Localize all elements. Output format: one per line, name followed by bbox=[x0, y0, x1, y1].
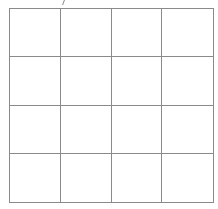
board-cell-r3-c1[interactable] bbox=[10, 106, 61, 154]
board-cell-r4-c3[interactable] bbox=[112, 154, 163, 202]
game-board-grid bbox=[9, 8, 214, 203]
board-cell-r4-c1[interactable] bbox=[10, 154, 61, 202]
board-cell-r1-c1[interactable] bbox=[10, 9, 61, 57]
board-cell-r4-c4[interactable] bbox=[162, 154, 213, 202]
board-cell-r3-c4[interactable] bbox=[162, 106, 213, 154]
board-cell-r1-c4[interactable] bbox=[162, 9, 213, 57]
board-cell-r3-c3[interactable] bbox=[112, 106, 163, 154]
board-cell-r1-c2[interactable] bbox=[61, 9, 112, 57]
board-cell-r2-c1[interactable] bbox=[10, 57, 61, 105]
board-cell-r2-c2[interactable] bbox=[61, 57, 112, 105]
clipped-title-fragment bbox=[58, 0, 65, 5]
board-cell-r4-c2[interactable] bbox=[61, 154, 112, 202]
board-cell-r2-c4[interactable] bbox=[162, 57, 213, 105]
board-cell-r3-c2[interactable] bbox=[61, 106, 112, 154]
board-cell-r1-c3[interactable] bbox=[112, 9, 163, 57]
board-cell-r2-c3[interactable] bbox=[112, 57, 163, 105]
